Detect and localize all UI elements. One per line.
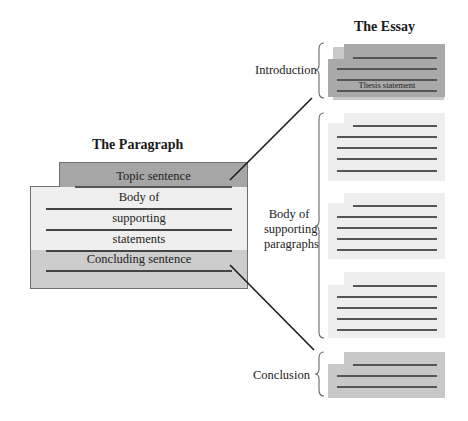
body1-line-3 [337, 147, 437, 149]
conclusion-line-3 [337, 386, 437, 388]
body1-line-2 [337, 136, 437, 138]
thesis-statement-text: Thesis statement [337, 80, 437, 90]
body3-line-2 [337, 296, 437, 298]
body1-line-1 [353, 125, 437, 127]
intro-line-4 [337, 90, 437, 92]
body-paragraphs-label: Body of supporting paragraphs [264, 207, 314, 252]
introduction-label: Introduction [255, 63, 317, 78]
body-label-line-3: paragraphs [264, 237, 314, 252]
conclusion-page-main [328, 364, 445, 398]
body1-line-5 [337, 170, 437, 172]
body2-line-4 [337, 238, 437, 240]
body2-line-1 [353, 205, 437, 207]
body-label-line-1: Body of [264, 207, 314, 222]
body2-line-5 [337, 249, 437, 251]
body1-main [328, 123, 445, 181]
body2-line-3 [337, 227, 437, 229]
body2-line-2 [337, 216, 437, 218]
body2-main [328, 203, 445, 259]
topic-to-introduction-arrow [230, 98, 312, 180]
body3-line-5 [337, 329, 437, 331]
conclusion-to-conclusion-arrow [230, 265, 314, 350]
body3-line-1 [353, 285, 437, 287]
intro-line-1 [353, 57, 437, 59]
intro-line-2 [337, 68, 437, 70]
conclusion-line-2 [337, 375, 437, 377]
body3-line-4 [337, 318, 437, 320]
conclusion-line-1 [353, 364, 437, 366]
conclusion-label: Conclusion [253, 368, 310, 383]
body3-line-3 [337, 307, 437, 309]
conclusion-brace-icon [315, 352, 324, 396]
body-label-line-2: supporting [264, 222, 314, 237]
body1-line-4 [337, 158, 437, 160]
